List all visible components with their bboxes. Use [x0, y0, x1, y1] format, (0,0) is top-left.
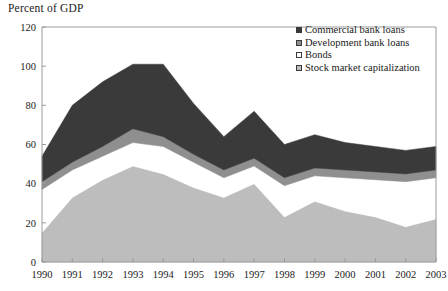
y-tick-label: 40: [26, 178, 37, 189]
x-tick-label: 1994: [153, 269, 175, 280]
legend-swatch-icon: [296, 52, 302, 58]
x-tick-label: 1993: [122, 269, 143, 280]
x-tick-label: 1990: [32, 269, 53, 280]
x-tick-label: 2002: [395, 269, 416, 280]
y-tick-label: 60: [26, 139, 37, 150]
legend-item[interactable]: Development bank loans: [296, 37, 420, 50]
x-tick-label: 1998: [274, 269, 295, 280]
legend-item[interactable]: Commercial bank loans: [296, 24, 420, 37]
x-tick-label: 1992: [92, 269, 113, 280]
x-tick-label: 1997: [244, 269, 265, 280]
y-tick-label: 20: [26, 218, 37, 229]
legend-label: Commercial bank loans: [305, 24, 405, 37]
chart-container: Percent of GDP 0204060801001201990199119…: [0, 0, 448, 291]
chart-legend: Commercial bank loansDevelopment bank lo…: [296, 24, 420, 74]
x-tick-label: 2003: [426, 269, 447, 280]
legend-item[interactable]: Bonds: [296, 49, 420, 62]
legend-item[interactable]: Stock market capitalization: [296, 62, 420, 75]
legend-label: Stock market capitalization: [305, 62, 420, 75]
x-tick-label: 1995: [183, 269, 204, 280]
y-tick-label: 120: [20, 22, 36, 33]
y-tick-label: 100: [20, 61, 36, 72]
x-tick-label: 2000: [335, 269, 356, 280]
y-tick-label: 0: [31, 257, 36, 268]
legend-label: Development bank loans: [305, 37, 409, 50]
x-tick-label: 1999: [304, 269, 325, 280]
y-tick-label: 80: [26, 100, 37, 111]
y-axis-title: Percent of GDP: [8, 2, 84, 14]
legend-swatch-icon: [296, 27, 302, 33]
legend-swatch-icon: [296, 65, 302, 71]
x-tick-label: 2001: [365, 269, 386, 280]
legend-swatch-icon: [296, 40, 302, 46]
legend-label: Bonds: [305, 49, 332, 62]
x-tick-label: 1991: [62, 269, 83, 280]
x-tick-label: 1996: [213, 269, 234, 280]
